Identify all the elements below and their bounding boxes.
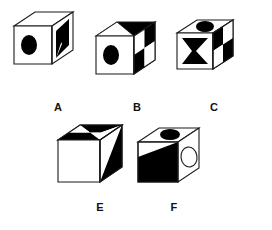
cube-a-left-ellipse-icon — [21, 35, 37, 55]
cube-a — [14, 12, 73, 64]
cube-f-top-ellipse-icon — [160, 129, 180, 140]
cube-label-a: A — [50, 102, 66, 113]
cube-label-b: B — [129, 102, 145, 113]
cube-f — [138, 128, 199, 182]
cube-label-f: F — [166, 202, 182, 213]
cubes-canvas — [0, 0, 272, 230]
cube-e — [58, 125, 122, 182]
cubes-figure: A B C E F — [0, 0, 272, 230]
cube-b-left-ellipse-icon — [103, 45, 119, 65]
cube-b — [96, 22, 155, 74]
cube-c-top-ellipse-icon — [196, 21, 214, 32]
cube-c — [177, 20, 233, 69]
cube-e-left-face — [58, 140, 100, 182]
cube-label-c: C — [206, 102, 222, 113]
cube-label-e: E — [92, 202, 108, 213]
